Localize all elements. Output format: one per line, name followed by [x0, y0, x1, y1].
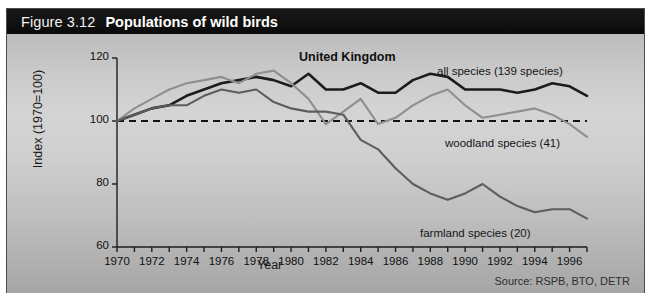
x-tick-label: 1986 [380, 255, 412, 267]
figure-title-bar: Figure 3.12 Populations of wild birds [7, 9, 644, 34]
all-species-label: all species (139 species) [437, 65, 563, 77]
x-tick-label: 1996 [554, 255, 586, 267]
x-tick-label: 1970 [101, 255, 133, 267]
x-tick-label: 1992 [484, 255, 516, 267]
x-tick-label: 1974 [171, 255, 203, 267]
x-tick-label: 1972 [136, 255, 168, 267]
figure-title: Populations of wild birds [105, 14, 277, 30]
woodland-species-label: woodland species (41) [445, 137, 560, 149]
y-tick-label: 80 [79, 176, 109, 188]
plot-body: United Kingdom Index (1970=100) Year Sou… [7, 34, 644, 293]
x-tick-label: 1980 [275, 255, 307, 267]
figure-panel: Figure 3.12 Populations of wild birds Un… [6, 8, 645, 293]
x-tick-label: 1982 [310, 255, 342, 267]
x-tick-label: 1988 [414, 255, 446, 267]
figure-container: Figure 3.12 Populations of wild birds Un… [0, 0, 653, 304]
farmland-species-label: farmland species (20) [420, 227, 531, 239]
x-tick-label: 1990 [449, 255, 481, 267]
figure-number: Figure 3.12 [21, 14, 95, 30]
series-line-3 [117, 90, 587, 219]
y-tick-label: 120 [79, 50, 109, 62]
x-tick-label: 1978 [240, 255, 272, 267]
series-line-1 [117, 74, 587, 121]
x-tick-label: 1976 [205, 255, 237, 267]
x-tick-label: 1994 [519, 255, 551, 267]
y-tick-label: 100 [79, 113, 109, 125]
y-tick-label: 60 [79, 239, 109, 251]
x-tick-label: 1984 [345, 255, 377, 267]
